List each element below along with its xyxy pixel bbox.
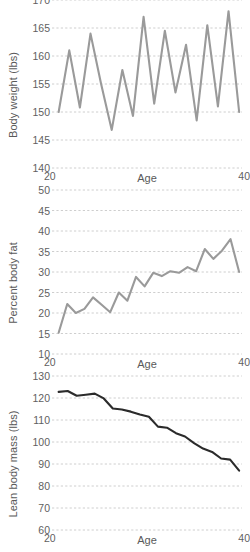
- y-tick-label: 80: [38, 480, 50, 492]
- y-tick-label: 155: [32, 78, 50, 90]
- y-tick-label: 100: [32, 436, 50, 448]
- y-tick-labels-percent-body-fat: 101520253035404550: [26, 190, 52, 376]
- x-axis-title-percent-body-fat: Age: [52, 358, 242, 370]
- plot-area-lean-body-mass: 60708090100110120130 20 40 Age: [26, 376, 250, 552]
- y-tick-label: 165: [32, 22, 50, 34]
- plot-canvas-lean-body-mass: [52, 376, 242, 552]
- plot-area-percent-body-fat: 101520253035404550 20 40 Age: [26, 190, 250, 376]
- x-axis-lean-body-mass: 20 40 Age: [52, 530, 242, 552]
- y-axis-title-percent-body-fat: Percent body fat: [0, 190, 26, 376]
- plot-canvas-percent-body-fat: [52, 190, 242, 376]
- chart-panel-percent-body-fat: Percent body fat 101520253035404550 20 4…: [0, 190, 250, 376]
- y-axis-title-text: Lean body mass (lbs): [7, 410, 19, 517]
- y-tick-label: 110: [33, 414, 50, 426]
- x-axis-percent-body-fat: 20 40 Age: [52, 354, 242, 376]
- y-tick-label: 35: [38, 246, 50, 258]
- y-tick-labels-lean-body-mass: 60708090100110120130: [26, 376, 52, 552]
- line-chart-percent-body-fat: [52, 190, 242, 376]
- plot-area-body-weight: 140145150155160165170 20 40 Age: [26, 0, 250, 190]
- y-axis-title-text: Body weight (lbs): [7, 52, 19, 138]
- y-tick-label: 145: [32, 134, 50, 146]
- y-tick-label: 170: [32, 0, 50, 6]
- y-tick-label: 15: [38, 328, 50, 340]
- y-axis-title-text: Percent body fat: [7, 242, 19, 324]
- y-tick-label: 25: [38, 287, 50, 299]
- data-series-line: [59, 239, 240, 332]
- y-axis-title-body-weight: Body weight (lbs): [0, 0, 26, 190]
- y-tick-label: 45: [38, 205, 50, 217]
- y-tick-label: 50: [38, 184, 50, 196]
- x-axis-title-body-weight: Age: [52, 172, 242, 184]
- y-tick-label: 40: [38, 225, 50, 237]
- line-chart-lean-body-mass: [52, 376, 242, 552]
- plot-canvas-body-weight: [52, 0, 242, 190]
- data-series-line: [59, 391, 240, 471]
- y-tick-labels-body-weight: 140145150155160165170: [26, 0, 52, 190]
- x-axis-title-lean-body-mass: Age: [52, 534, 242, 546]
- y-tick-label: 120: [32, 392, 50, 404]
- line-chart-body-weight: [52, 0, 242, 190]
- y-tick-label: 30: [38, 266, 50, 278]
- y-tick-label: 160: [32, 50, 50, 62]
- chart-panel-lean-body-mass: Lean body mass (lbs) 6070809010011012013…: [0, 376, 250, 552]
- y-axis-title-lean-body-mass: Lean body mass (lbs): [0, 376, 26, 552]
- chart-stack: Body weight (lbs) 140145150155160165170 …: [0, 0, 250, 552]
- y-tick-label: 150: [32, 106, 50, 118]
- y-tick-label: 130: [32, 370, 50, 382]
- chart-panel-body-weight: Body weight (lbs) 140145150155160165170 …: [0, 0, 250, 190]
- y-tick-label: 70: [38, 502, 50, 514]
- y-tick-label: 90: [38, 458, 50, 470]
- y-tick-label: 20: [38, 307, 50, 319]
- x-axis-body-weight: 20 40 Age: [52, 168, 242, 190]
